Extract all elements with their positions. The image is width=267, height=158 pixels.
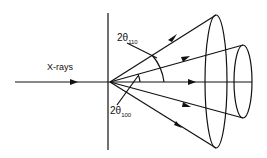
diffraction-diagram: X-rays 2θ110 2θ100 (0, 0, 267, 158)
diffraction-cones (0, 0, 267, 158)
angle-110-label: 2θ110 (117, 32, 138, 45)
angle-100-label: 2θ100 (110, 105, 131, 118)
xrays-label: X-rays (47, 62, 73, 72)
